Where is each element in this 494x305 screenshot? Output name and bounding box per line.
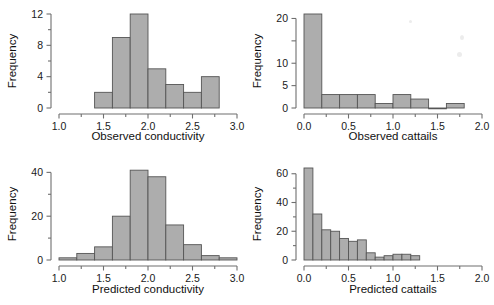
y-axis-tick-label: 60 — [276, 167, 288, 179]
panel-observed-cattails: 0.00.51.01.52.0051020Observed cattailsFr… — [247, 0, 494, 152]
y-axis-tick-label: 40 — [31, 166, 43, 178]
y-axis-tick-label: 10 — [276, 57, 288, 69]
y-axis-tick-label: 0 — [37, 254, 43, 266]
histogram-bar — [411, 99, 429, 108]
histogram-bar — [349, 241, 358, 260]
panel-observed-conductivity: 1.01.52.02.53.004812Observed conductivit… — [0, 0, 247, 152]
x-axis-label: Predicted cattails — [349, 283, 437, 295]
histogram-bar — [112, 216, 130, 260]
histogram-bar — [130, 14, 148, 108]
histogram-bar — [366, 253, 375, 260]
y-axis-tick-label: 5 — [282, 79, 288, 91]
x-axis-tick-label: 0.0 — [297, 272, 312, 284]
histogram-bar — [340, 238, 349, 260]
histogram-bar — [331, 231, 340, 260]
x-axis-label: Observed cattails — [349, 130, 438, 142]
y-axis-tick-label: 40 — [276, 196, 288, 208]
histogram-bar — [148, 177, 166, 260]
y-axis-tick-label: 0 — [37, 102, 43, 114]
x-axis-label: Predicted conductivity — [92, 283, 204, 295]
x-axis-label: Observed conductivity — [91, 130, 204, 142]
histogram-bar — [166, 225, 184, 260]
x-axis-tick-label: 2.0 — [475, 120, 490, 132]
plot-area-predicted-conductivity: 1.01.52.02.53.002040Predicted conductivi… — [6, 166, 244, 295]
histogram-bar — [384, 256, 393, 260]
y-axis-label: Frequency — [251, 187, 263, 242]
y-axis-tick-label: 4 — [37, 70, 43, 82]
histogram-bar — [112, 38, 130, 109]
x-axis-tick-label: 2.0 — [475, 272, 490, 284]
y-axis-tick-label: 12 — [31, 8, 43, 20]
chart-observed-conductivity: 1.01.52.02.53.004812Observed conductivit… — [0, 0, 247, 152]
histogram-bar — [357, 95, 375, 108]
histogram-bar — [59, 258, 77, 260]
histogram-bar — [402, 254, 411, 260]
plot-area-observed-conductivity: 1.01.52.02.53.004812Observed conductivit… — [6, 8, 244, 142]
histogram-bar — [411, 256, 420, 260]
histogram-bar — [375, 104, 393, 108]
histogram-bar — [148, 69, 166, 108]
chart-predicted-conductivity: 1.01.52.02.53.002040Predicted conductivi… — [0, 152, 247, 305]
histogram-bar — [429, 108, 447, 109]
plot-area-observed-cattails: 0.00.51.01.52.0051020Observed cattailsFr… — [251, 12, 489, 142]
panel-predicted-conductivity: 1.01.52.02.53.002040Predicted conductivi… — [0, 152, 247, 305]
x-axis-tick-label: 3.0 — [230, 272, 245, 284]
y-axis-tick-label: 20 — [276, 225, 288, 237]
histogram-bar — [95, 247, 113, 260]
y-axis-tick-label: 8 — [37, 39, 43, 51]
y-axis-tick-label: 0 — [282, 254, 288, 266]
histogram-bar — [446, 104, 464, 108]
y-axis-label: Frequency — [6, 187, 18, 242]
histogram-bar — [322, 95, 340, 108]
plot-area-predicted-cattails: 0.00.51.01.52.00204060Predicted cattails… — [251, 167, 489, 295]
x-axis-tick-label: 1.0 — [52, 272, 67, 284]
histogram-bar — [166, 85, 184, 109]
y-axis-tick-label: 0 — [282, 102, 288, 114]
histogram-bar — [95, 92, 113, 108]
histogram-bar — [184, 245, 202, 260]
histogram-bar — [393, 95, 411, 108]
x-axis-tick-label: 0.0 — [297, 120, 312, 132]
y-axis-label: Frequency — [6, 34, 18, 89]
histogram-bar — [201, 77, 219, 108]
y-axis-label: Frequency — [251, 34, 263, 89]
histogram-bar — [393, 254, 402, 260]
y-axis-tick-label: 20 — [276, 12, 288, 24]
histogram-bar — [322, 230, 331, 260]
histogram-bar — [219, 258, 237, 260]
histogram-bar — [77, 253, 95, 260]
histogram-bar — [357, 240, 366, 260]
histogram-bar — [304, 168, 313, 260]
histogram-bar — [313, 214, 322, 260]
x-axis-tick-label: 1.0 — [52, 120, 67, 132]
histogram-bar — [201, 256, 219, 260]
histogram-bar — [304, 14, 322, 108]
chart-observed-cattails: 0.00.51.01.52.0051020Observed cattailsFr… — [247, 0, 494, 152]
histogram-bar — [130, 170, 148, 260]
histogram-bar — [340, 95, 358, 108]
histogram-figure: 1.01.52.02.53.004812Observed conductivit… — [0, 0, 494, 305]
chart-predicted-cattails: 0.00.51.01.52.00204060Predicted cattails… — [247, 152, 494, 305]
histogram-bar — [184, 92, 202, 108]
y-axis-tick-label: 20 — [31, 210, 43, 222]
panel-predicted-cattails: 0.00.51.01.52.00204060Predicted cattails… — [247, 152, 494, 305]
histogram-bar — [375, 257, 384, 260]
x-axis-tick-label: 3.0 — [230, 120, 245, 132]
